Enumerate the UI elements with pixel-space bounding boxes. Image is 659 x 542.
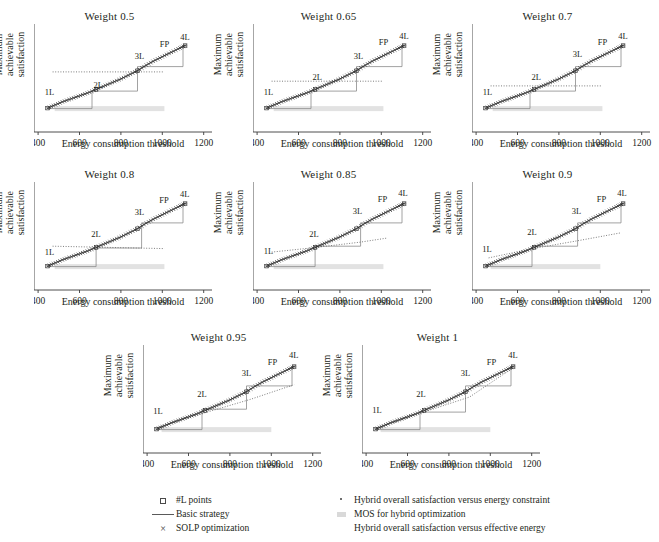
svg-text:600: 600: [400, 459, 415, 469]
subplot-title: Weight 0.65: [219, 10, 438, 22]
svg-text:4L: 4L: [180, 189, 189, 199]
legend-item: Hybrid overall satisfaction versus effec…: [328, 521, 650, 535]
svg-text:2L: 2L: [197, 389, 206, 399]
legend-label: Basic strategy: [176, 509, 230, 519]
svg-text:1L: 1L: [264, 246, 273, 256]
y-axis-label-line2: satisfaction: [15, 170, 26, 256]
plot-area: 3.544.55400600800100012001L2L3LFP4L: [34, 182, 212, 290]
subplot-panel: Weight 0.65Maximum achievablesatisfactio…: [219, 4, 438, 159]
svg-text:400: 400: [253, 138, 264, 148]
svg-text:800: 800: [333, 296, 348, 306]
subplot-row-1: Weight 0.5Maximum achievablesatisfaction…: [0, 4, 659, 159]
svg-text:600: 600: [291, 138, 306, 148]
subplot-panel: Weight 0.8Maximum achievablesatisfaction…: [0, 162, 219, 317]
plot-area: 3.544.55400600800100012001L2L3LFP4L: [253, 24, 431, 132]
svg-text:FP: FP: [160, 39, 170, 49]
svg-text:3L: 3L: [242, 368, 251, 378]
svg-text:1200: 1200: [522, 459, 541, 469]
subplot-panel: Weight 0.85Maximum achievablesatisfactio…: [219, 162, 438, 317]
subplot-panel: Weight 0.95Maximum achievablesatisfactio…: [109, 325, 328, 480]
svg-text:2L: 2L: [312, 72, 321, 82]
svg-text:1200: 1200: [632, 296, 651, 306]
svg-text:1200: 1200: [194, 138, 213, 148]
subplot-panel: Weight 0.5Maximum achievablesatisfaction…: [0, 4, 219, 159]
subplot-title: Weight 0.5: [0, 10, 219, 22]
svg-text:800: 800: [552, 138, 567, 148]
y-axis-label-line2: satisfaction: [15, 12, 26, 98]
legend-item: #L points: [150, 493, 325, 507]
svg-text:2L: 2L: [93, 80, 102, 90]
legend-label: SOLP optimization: [176, 523, 249, 533]
legend-item: Basic strategy: [150, 507, 325, 521]
subplot-row-3: Weight 0.95Maximum achievablesatisfactio…: [109, 325, 659, 480]
svg-text:1000: 1000: [372, 296, 391, 306]
svg-text:4L: 4L: [508, 350, 517, 360]
svg-text:600: 600: [181, 459, 196, 469]
legend-label: MOS for hybrid optimization: [354, 509, 466, 519]
line-marker-icon: [150, 509, 176, 519]
y-axis-label-line1: Maximum achievable: [0, 12, 15, 98]
svg-text:800: 800: [552, 296, 567, 306]
svg-text:FP: FP: [597, 194, 607, 204]
svg-text:1000: 1000: [262, 459, 281, 469]
svg-text:400: 400: [143, 459, 154, 469]
plot-area: 3.544.55400600800100012001L2L3LFP4L: [143, 345, 321, 453]
svg-text:2L: 2L: [527, 227, 536, 237]
subplot-title: Weight 0.8: [0, 168, 219, 180]
subplot-title: Weight 1: [328, 331, 547, 343]
y-axis-label-line1: Maximum achievable: [0, 170, 15, 256]
svg-text:400: 400: [472, 296, 483, 306]
svg-text:FP: FP: [378, 194, 388, 204]
subplot-panel: Weight 0.9Maximum achievablesatisfaction…: [438, 162, 657, 317]
cross-marker-icon: [150, 522, 176, 533]
y-axis-label-line1: Maximum achievable: [102, 333, 124, 419]
legend-item: MOS for hybrid optimization: [328, 507, 650, 521]
y-axis-label: Maximum achievablesatisfaction: [0, 170, 26, 256]
mos-band-marker-icon: [328, 509, 354, 519]
svg-text:4L: 4L: [180, 32, 189, 42]
svg-text:2L: 2L: [416, 389, 425, 399]
y-axis-label-line2: satisfaction: [234, 12, 245, 98]
y-axis-label-line2: satisfaction: [234, 170, 245, 256]
svg-text:4L: 4L: [289, 350, 298, 360]
svg-text:800: 800: [223, 459, 238, 469]
svg-text:2L: 2L: [531, 72, 540, 82]
svg-text:1000: 1000: [153, 296, 172, 306]
svg-text:1L: 1L: [45, 87, 54, 97]
y-axis-label-line1: Maximum achievable: [212, 170, 234, 256]
svg-text:FP: FP: [159, 195, 169, 205]
y-axis-label: Maximum achievablesatisfaction: [431, 170, 464, 256]
svg-text:800: 800: [114, 138, 128, 148]
svg-text:1L: 1L: [153, 406, 162, 416]
subplot-title: Weight 0.95: [109, 331, 328, 343]
svg-text:3L: 3L: [572, 206, 581, 216]
svg-text:1L: 1L: [483, 87, 492, 97]
y-axis-label-line1: Maximum achievable: [431, 12, 453, 98]
y-axis-label: Maximum achievablesatisfaction: [102, 333, 135, 419]
subplot-panel: Weight 0.7Maximum achievablesatisfaction…: [438, 4, 657, 159]
svg-text:FP: FP: [268, 357, 278, 367]
svg-text:FP: FP: [598, 37, 608, 47]
y-axis-label: Maximum achievablesatisfaction: [0, 12, 26, 98]
svg-text:1200: 1200: [413, 296, 432, 306]
svg-text:600: 600: [291, 296, 306, 306]
y-axis-label-line2: satisfaction: [453, 170, 464, 256]
svg-text:3L: 3L: [135, 207, 144, 217]
svg-text:3L: 3L: [354, 51, 363, 61]
svg-text:3L: 3L: [353, 206, 362, 216]
svg-text:2L: 2L: [309, 229, 318, 239]
svg-text:400: 400: [362, 459, 373, 469]
svg-text:1000: 1000: [591, 138, 610, 148]
svg-text:4L: 4L: [398, 188, 407, 198]
svg-text:4L: 4L: [617, 188, 626, 198]
svg-text:1L: 1L: [372, 405, 381, 415]
svg-text:1L: 1L: [45, 247, 54, 257]
legend-column-left: #L pointsBasic strategySOLP optimization: [150, 493, 325, 535]
svg-text:1000: 1000: [153, 138, 172, 148]
figure-container: Weight 0.5Maximum achievablesatisfaction…: [0, 0, 659, 542]
svg-text:400: 400: [34, 138, 45, 148]
subplot-title: Weight 0.85: [219, 168, 438, 180]
svg-text:4L: 4L: [618, 31, 627, 41]
svg-text:600: 600: [72, 138, 87, 148]
plot-area: 3.544.55400600800100012001L2L3LFP4L: [472, 182, 650, 290]
